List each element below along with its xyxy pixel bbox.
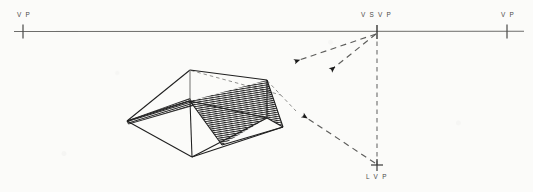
edge-apexleft-to-apexright — [190, 70, 267, 80]
ray-vsvp-upper-arrow — [295, 34, 376, 62]
left-shadow-wedge — [127, 99, 193, 125]
edge-left-to-bottom — [127, 121, 192, 157]
cast-shadow-hatched-area — [190, 80, 283, 145]
light-ray-arrows — [295, 34, 376, 163]
edge-left-to-ridgeleft — [127, 101, 190, 121]
vsvp-label: V S V P — [361, 11, 392, 18]
diagram-page: V P V S V P V P L V P — [0, 0, 533, 192]
ray-vsvp-lower-arrow — [331, 34, 376, 70]
perspective-diagram-canvas — [0, 0, 533, 192]
lvp-cross-marker — [371, 159, 383, 171]
edge-ridgeleft-to-bottom — [190, 101, 192, 157]
lvp-label: L V P — [366, 173, 388, 180]
vp-left-label: V P — [17, 11, 31, 18]
vp-right-label: V P — [501, 11, 515, 18]
ray-lvp-to-object-arrow — [303, 116, 375, 164]
